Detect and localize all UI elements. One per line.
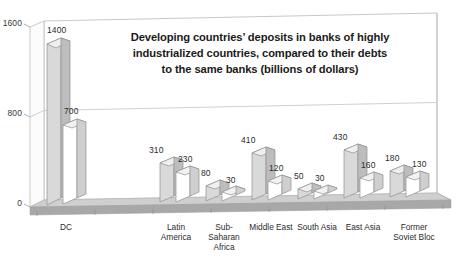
chart-title: Developing countries’ deposits in banks … <box>112 30 408 78</box>
y-axis-tick-label-0: 0 <box>0 199 22 208</box>
x-axis-label-former-soviet-bloc: Former Soviet Bloc <box>393 222 435 242</box>
data-label-middle-east-debts: 120 <box>269 164 283 173</box>
x-axis-label-latin-america: Latin America <box>161 222 191 242</box>
data-label-middle-east-deposits: 410 <box>241 136 255 145</box>
data-label-former-soviet-bloc-deposits: 180 <box>385 154 399 163</box>
x-axis-label-east-asia: East Asia <box>346 222 381 232</box>
data-label-former-soviet-bloc-debts: 130 <box>412 160 426 169</box>
bar-dc-debts <box>63 119 86 204</box>
chart-title-line-2: industrialized countries, compared to th… <box>112 46 408 62</box>
y-axis-tick-label-1600: 1600 <box>0 19 22 28</box>
ytick-mark-800 <box>24 114 30 117</box>
x-axis-label-middle-east: Middle East <box>249 222 292 232</box>
chart-container: Developing countries’ deposits in banks … <box>0 0 464 258</box>
data-label-dc-deposits: 1400 <box>47 26 66 35</box>
data-label-south-asia-deposits: 50 <box>294 172 304 181</box>
data-label-east-asia-debts: 160 <box>361 161 375 170</box>
x-axis-label-south-asia: South Asia <box>297 222 337 232</box>
ytick-mark-1600 <box>24 24 30 27</box>
chart-title-line-3: to the same banks (billions of dollars) <box>112 62 408 78</box>
data-label-latin-america-debts: 230 <box>178 155 192 164</box>
data-label-east-asia-deposits: 430 <box>333 133 347 142</box>
y-axis-tick-label-800: 800 <box>0 109 22 118</box>
ytick-mark-0 <box>24 204 30 207</box>
data-label-sub-saharan-africa-debts: 30 <box>226 176 236 185</box>
data-label-dc-debts: 700 <box>64 107 78 116</box>
chart-title-line-1: Developing countries’ deposits in banks … <box>112 30 408 46</box>
x-axis-label-sub-saharan-africa: Sub- Saharan Africa <box>208 222 239 252</box>
data-label-latin-america-deposits: 310 <box>149 146 163 155</box>
data-label-sub-saharan-africa-deposits: 80 <box>201 169 211 178</box>
x-axis-label-dc: DC <box>60 222 72 232</box>
data-label-south-asia-debts: 30 <box>315 174 325 183</box>
